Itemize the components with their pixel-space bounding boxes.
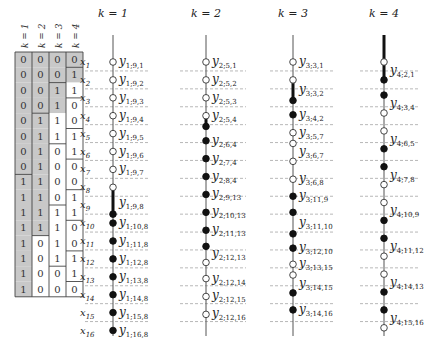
filled-node [381, 217, 388, 224]
filled-node [110, 309, 117, 316]
open-node [110, 166, 117, 173]
column-title: k = 3 [278, 7, 308, 20]
table-bit: 0 [54, 69, 60, 80]
open-node [110, 59, 117, 66]
open-node [110, 77, 117, 84]
open-node [290, 158, 297, 165]
node-label: y4;6,5 [389, 132, 415, 148]
table-bit: 1 [37, 176, 43, 187]
table-bit: 0 [20, 69, 26, 80]
filled-node [203, 123, 210, 130]
open-node [203, 275, 210, 282]
node-label: y4;7,8 [389, 168, 415, 184]
open-node [203, 112, 210, 119]
open-node [203, 77, 210, 84]
column-k4: k = 4y4;2,1y4;3,4y4;6,5y4;7,8y4;10,9y4;1… [369, 7, 424, 336]
table-bit: 0 [54, 176, 60, 187]
filled-node [290, 231, 297, 238]
node-label: y2;12,16 [211, 306, 246, 322]
open-node [110, 184, 117, 191]
table-bit: 0 [37, 268, 43, 279]
table-bit: 1 [71, 146, 77, 157]
table-bit: 1 [20, 192, 26, 203]
table-bit: 1 [71, 192, 77, 203]
open-node [381, 110, 388, 117]
open-node [203, 311, 210, 318]
table-header: k = 4 [71, 23, 81, 48]
node-label: y1;16,8 [118, 323, 148, 339]
level-columns: k = 1y1;9,1y1;9,2y1;9,3y1;9,4y1;9,5y1;9,… [98, 7, 424, 339]
table-bit: 1 [20, 222, 26, 233]
filled-node [110, 327, 117, 334]
filled-node [110, 274, 117, 281]
open-node [290, 59, 297, 66]
filled-node [381, 92, 388, 99]
filled-node [203, 227, 210, 234]
table-bit: 1 [20, 207, 26, 218]
open-node [290, 261, 297, 268]
table-bit: 0 [20, 54, 26, 65]
gray-code-table: k = 1k = 2k = 3k = 400000001001100100110… [15, 23, 83, 297]
table-bit: 1 [54, 253, 60, 264]
table-bit: 0 [20, 85, 26, 96]
filled-node [290, 97, 297, 104]
node-label: y1;11,8 [118, 233, 148, 249]
node-label: y3;13,15 [298, 256, 333, 272]
table-bit: 0 [54, 268, 60, 279]
filled-node [203, 209, 210, 216]
table-bit: 1 [54, 85, 60, 96]
node-label: y1;10,8 [118, 215, 148, 231]
filled-node [110, 211, 117, 218]
table-bit: 0 [54, 54, 60, 65]
table-bit: 1 [37, 192, 43, 203]
table-bit: 0 [71, 176, 77, 187]
filled-node [110, 220, 117, 227]
node-label: y3;4,2 [298, 107, 324, 123]
filled-node [203, 243, 210, 250]
table-bit: 1 [54, 222, 60, 233]
table-bit: 0 [54, 284, 60, 295]
node-label: y3;12,10 [298, 240, 333, 256]
open-node [203, 293, 210, 300]
open-node [290, 176, 297, 183]
table-bit: 0 [71, 100, 77, 111]
filled-node [381, 289, 388, 296]
table-bit: 1 [71, 207, 77, 218]
node-label: y2;6,4 [211, 133, 237, 149]
filled-node [290, 290, 297, 297]
node-label: y1;9,4 [118, 108, 144, 124]
node-label: y2;12,14 [211, 271, 246, 287]
table-bit: 1 [37, 222, 43, 233]
open-node [290, 140, 297, 147]
filled-node [110, 238, 117, 245]
open-node [381, 253, 388, 260]
open-node [110, 95, 117, 102]
filled-node [110, 256, 117, 263]
table-bit: 1 [54, 131, 60, 142]
node-label: y4;15,16 [389, 311, 424, 327]
open-node [381, 181, 388, 188]
table-bit: 0 [37, 69, 43, 80]
table-bit: 1 [37, 207, 43, 218]
filled-node [203, 173, 210, 180]
table-bit: 0 [54, 146, 60, 157]
table-bit: 0 [37, 253, 43, 264]
filled-node [290, 209, 297, 216]
node-label: y2;5,4 [211, 108, 237, 124]
table-bit: 0 [20, 131, 26, 142]
node-label: y3;11,10 [298, 215, 333, 231]
filled-node [203, 155, 210, 162]
node-label: y2;10,13 [211, 204, 246, 220]
column-title: k = 2 [191, 7, 221, 20]
node-label: y3;5,7 [298, 125, 324, 141]
table-bit: 0 [71, 238, 77, 249]
table-bit: 1 [20, 238, 26, 249]
table-bit: 0 [54, 161, 60, 172]
table-bit: 1 [71, 85, 77, 96]
table-bit: 0 [37, 284, 43, 295]
open-node [203, 259, 210, 266]
table-bit: 0 [37, 238, 43, 249]
node-label: y3;6,8 [298, 171, 324, 187]
filled-node [203, 191, 210, 198]
table-bit: 0 [20, 161, 26, 172]
